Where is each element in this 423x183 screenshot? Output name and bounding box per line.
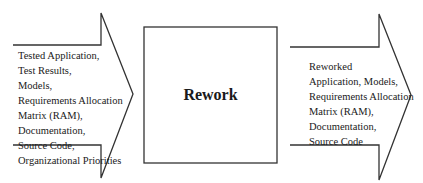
output-line: Documentation, (309, 119, 414, 134)
input-line: Models, (18, 78, 123, 93)
output-line: Requirements Allocation (309, 89, 414, 104)
input-arrow-label: Tested Application, Test Results, Models… (18, 48, 123, 168)
input-line: Documentation, (18, 123, 123, 138)
input-line: Tested Application, (18, 48, 123, 63)
output-line: Reworked (309, 59, 414, 74)
input-line: Source Code, (18, 138, 123, 153)
output-line: Source Code (309, 134, 414, 149)
input-line: Requirements Allocation (18, 93, 123, 108)
input-line: Test Results, (18, 63, 123, 78)
input-line: Organizational Priorities (18, 153, 123, 168)
input-line: Matrix (RAM), (18, 108, 123, 123)
output-arrow-label: Reworked Application, Models, Requiremen… (309, 59, 414, 149)
process-title: Rework (144, 27, 277, 163)
output-line: Matrix (RAM), (309, 104, 414, 119)
rework-process-diagram: Tested Application, Test Results, Models… (0, 0, 423, 183)
output-line: Application, Models, (309, 74, 414, 89)
